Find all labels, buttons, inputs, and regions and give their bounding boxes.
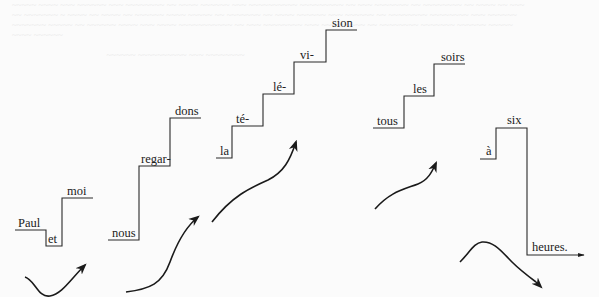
syllable: les bbox=[413, 82, 427, 96]
syllable: regar- bbox=[141, 152, 171, 166]
rising-arrow-icon bbox=[126, 217, 198, 292]
rising-arrow-icon bbox=[375, 163, 436, 209]
syllable: nous bbox=[112, 226, 136, 240]
syllable: moi bbox=[67, 184, 87, 198]
syllable: vi- bbox=[300, 48, 314, 62]
syllable: soirs bbox=[441, 50, 465, 64]
staircase-line bbox=[216, 30, 357, 158]
phrase-nous-regardons: nous regar- dons bbox=[108, 104, 201, 292]
staircase-line bbox=[480, 128, 584, 255]
dotted-arrow-tail bbox=[536, 282, 541, 287]
syllable: heures. bbox=[532, 240, 568, 254]
phrase-tous-les-soirs: tous les soirs bbox=[373, 50, 465, 209]
staircase-line bbox=[108, 118, 201, 240]
syllable: et bbox=[48, 232, 58, 246]
falling-rising-arrow-icon bbox=[25, 265, 85, 296]
syllable: sion bbox=[332, 16, 354, 30]
syllable: la bbox=[220, 144, 229, 158]
phrase-paul-et-moi: Paul et moi bbox=[15, 184, 93, 296]
phrase-a-six-heures: à six heures. bbox=[460, 113, 584, 287]
intonation-diagram: Paul et moi nous regar- dons la té- lé- … bbox=[0, 0, 599, 297]
syllable: dons bbox=[175, 104, 199, 118]
rising-falling-arrow-icon bbox=[460, 242, 536, 282]
syllable: lé- bbox=[273, 80, 286, 94]
syllable: Paul bbox=[18, 216, 41, 230]
syllable: six bbox=[507, 113, 522, 127]
syllable: à bbox=[486, 144, 492, 158]
syllable: té- bbox=[236, 112, 249, 126]
phrase-la-television: la té- lé- vi- sion bbox=[212, 16, 357, 222]
syllable: tous bbox=[377, 114, 398, 128]
